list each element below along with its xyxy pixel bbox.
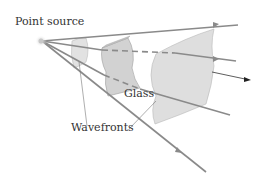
glass-label: Glass: [124, 88, 154, 99]
wavefront-diagram: Point source Glass Wavefronts: [0, 0, 263, 179]
wavefronts-label: Wavefronts: [71, 122, 134, 133]
small-wavefront: [71, 38, 88, 68]
point-source-label: Point source: [15, 16, 84, 27]
propagation-arrow: [212, 72, 251, 82]
large-wavefront: [151, 29, 214, 124]
